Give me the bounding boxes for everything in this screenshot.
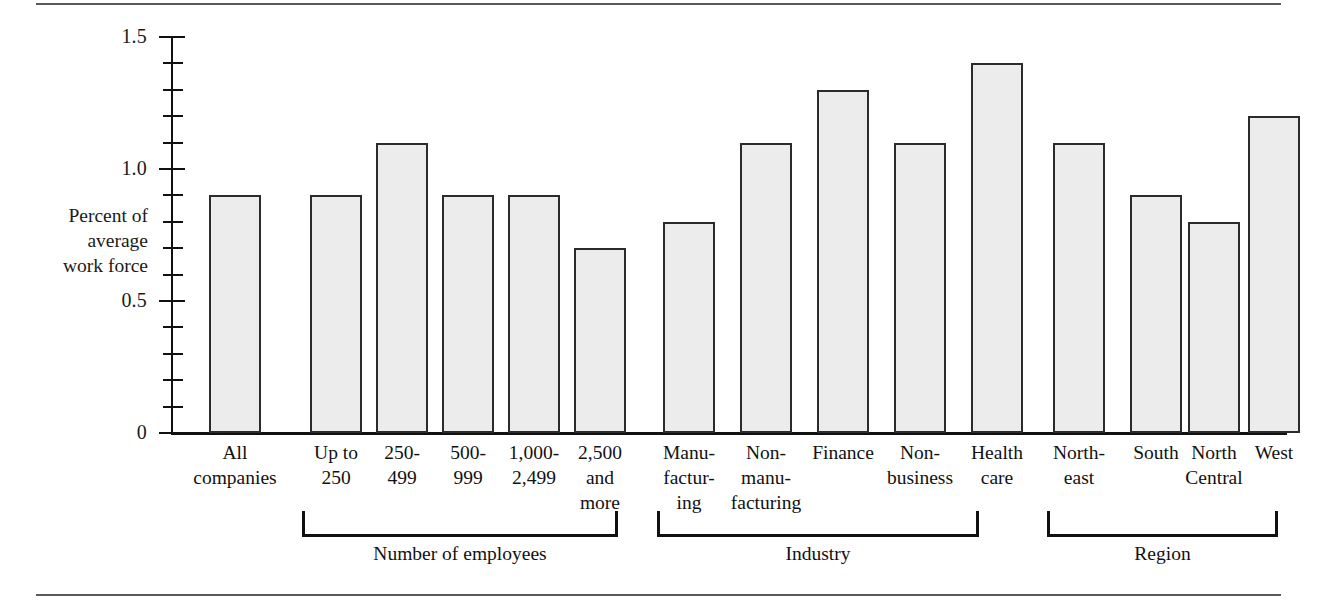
- bar: [442, 195, 494, 433]
- x-axis-category-label-line: 250: [296, 465, 376, 490]
- y-axis-minor-tick: [163, 89, 183, 91]
- x-axis-category-label: Healthcare: [955, 440, 1039, 490]
- x-axis-category-label-line: 2,500: [562, 440, 638, 465]
- y-axis-major-tick: [159, 300, 185, 302]
- x-axis-category-label-line: care: [955, 465, 1039, 490]
- top-divider-rule: [36, 3, 1281, 5]
- y-axis-line: [171, 37, 173, 434]
- bar: [1188, 222, 1240, 433]
- y-axis-major-tick: [159, 36, 185, 38]
- y-axis-tick-label: 1.0: [85, 158, 147, 178]
- figure-container: Percent ofaveragework force 1.51.00.50 A…: [0, 0, 1317, 605]
- x-axis-category-label-line: West: [1238, 440, 1310, 465]
- bottom-divider-rule: [36, 594, 1281, 596]
- x-axis-category-label-line: east: [1036, 465, 1122, 490]
- x-axis-category-label-line: and: [562, 465, 638, 490]
- bar: [971, 63, 1023, 433]
- y-axis-minor-tick: [163, 62, 183, 64]
- bar: [209, 195, 261, 433]
- bar: [1053, 143, 1105, 433]
- x-axis-category-label-line: Health: [955, 440, 1039, 465]
- x-axis-category-label: 250-499: [366, 440, 438, 490]
- y-axis-title-line: Percent of: [0, 203, 148, 228]
- bar: [894, 143, 946, 433]
- group-bracket: [657, 511, 979, 537]
- x-axis-category-label: Up to250: [296, 440, 376, 490]
- x-axis-category-label-line: business: [874, 465, 966, 490]
- y-axis-minor-tick: [163, 221, 183, 223]
- x-axis-category-label: North-east: [1036, 440, 1122, 490]
- y-axis-minor-tick: [163, 379, 183, 381]
- y-axis-minor-tick: [163, 115, 183, 117]
- x-axis-category-label-line: Up to: [296, 440, 376, 465]
- x-axis-category-label-line: All: [176, 440, 294, 465]
- y-axis-tick-label: 0: [85, 422, 147, 442]
- x-axis-category-label: Allcompanies: [176, 440, 294, 490]
- group-bracket-label: Region: [1047, 542, 1278, 566]
- x-axis-category-label: West: [1238, 440, 1310, 465]
- y-axis-title-line: average: [0, 228, 148, 253]
- bar: [376, 143, 428, 433]
- bar: [310, 195, 362, 433]
- bar: [740, 143, 792, 433]
- x-axis-category-label-line: Non-: [874, 440, 966, 465]
- x-axis-category-label: 2,500andmore: [562, 440, 638, 515]
- bar: [1248, 116, 1300, 433]
- x-axis-category-label-line: companies: [176, 465, 294, 490]
- y-axis-minor-tick: [163, 274, 183, 276]
- y-axis-minor-tick: [163, 406, 183, 408]
- bar: [663, 222, 715, 433]
- bar: [817, 90, 869, 433]
- y-axis-title-line: work force: [0, 253, 148, 278]
- y-axis-major-tick: [159, 432, 185, 434]
- x-axis-category-label-line: 250-: [366, 440, 438, 465]
- group-bracket: [1047, 511, 1278, 537]
- bar: [508, 195, 560, 433]
- bar: [1130, 195, 1182, 433]
- y-axis-minor-tick: [163, 194, 183, 196]
- group-bracket: [302, 511, 618, 537]
- y-axis-title: Percent ofaveragework force: [0, 203, 148, 278]
- x-axis-category-label-line: manu-: [717, 465, 815, 490]
- y-axis-minor-tick: [163, 247, 183, 249]
- x-axis-category-label-line: 499: [366, 465, 438, 490]
- y-axis-tick-label: 1.5: [85, 26, 147, 46]
- bar: [574, 248, 626, 433]
- y-axis-major-tick: [159, 168, 185, 170]
- y-axis-minor-tick: [163, 142, 183, 144]
- group-bracket-label: Industry: [657, 542, 979, 566]
- y-axis-tick-label: 0.5: [85, 290, 147, 310]
- x-axis-category-label-line: Central: [1168, 465, 1260, 490]
- x-axis-category-label-line: North-: [1036, 440, 1122, 465]
- x-axis-category-label: Non-business: [874, 440, 966, 490]
- y-axis-minor-tick: [163, 353, 183, 355]
- group-bracket-label: Number of employees: [302, 542, 618, 566]
- y-axis-minor-tick: [163, 326, 183, 328]
